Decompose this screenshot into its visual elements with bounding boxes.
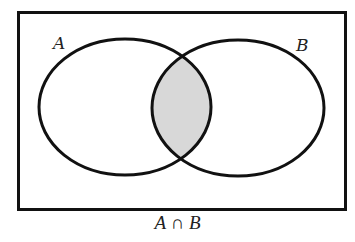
diagram-caption: A ∩ B	[0, 212, 355, 234]
venn-diagram: A B	[0, 0, 355, 242]
set-a-label: A	[51, 33, 65, 53]
set-b-label: B	[295, 35, 309, 55]
